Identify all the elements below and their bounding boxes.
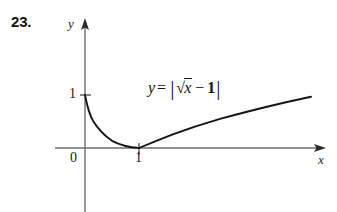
radical-expression: √x: [175, 79, 192, 97]
y-axis-label: y: [68, 16, 74, 32]
x-axis-label: x: [318, 152, 324, 168]
equation-constant: 1: [207, 79, 215, 96]
equation-annotation: y=|√x−1|: [148, 79, 222, 97]
equation-lhs: y: [148, 79, 155, 96]
function-curve: [85, 95, 311, 148]
graph-figure: [0, 0, 337, 212]
equation-equals: =: [157, 79, 166, 96]
minus-sign: −: [195, 79, 204, 96]
figure-page: 23. y x 1 0 1 y=|√x−1|: [0, 0, 337, 212]
y-tick-label-1: 1: [69, 86, 76, 102]
radicand: x: [184, 78, 192, 96]
x-tick-label-1: 1: [135, 150, 142, 166]
origin-label: 0: [70, 150, 77, 166]
